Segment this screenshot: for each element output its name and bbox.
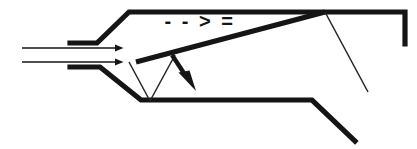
deflection-arrow [172,55,196,91]
deflection-arrow-head [179,71,197,92]
lower-inlet-wall [70,67,355,141]
flow-annotation-label: - - > = [165,10,236,32]
reflected-shock-line [325,12,368,92]
upper-inlet-wall [70,12,405,44]
deflection-arrow-shaft [172,55,185,74]
wedge-right-edge [150,55,175,101]
nozzle-flow-diagram: - - > = [0,0,417,149]
figure-root: - - > = [0,0,417,149]
